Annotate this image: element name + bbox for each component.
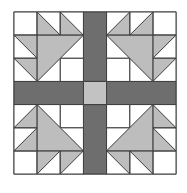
top-left-cell [14,12,37,35]
center-square [83,81,106,104]
quilt-block [14,12,176,174]
top-right-cell [153,12,176,35]
bottom-right-cell [153,151,176,174]
quilt-block-diagram [0,0,187,193]
top-left-cell [60,58,83,81]
bottom-left-cell [14,151,37,174]
bottom-left-cell [60,105,83,128]
bottom-right-cell [107,105,130,128]
top-right-cell [107,58,130,81]
